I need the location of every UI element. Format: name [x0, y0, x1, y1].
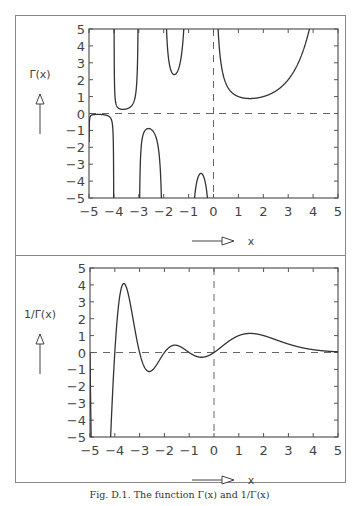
- y-tick-label: 0: [77, 107, 85, 122]
- y-tick-label: 0: [78, 346, 86, 361]
- x-tick-label: −5: [79, 204, 98, 219]
- y-tick-label: −1: [67, 362, 86, 377]
- y-tick-label: 5: [78, 261, 86, 276]
- x-tick-label: −2: [154, 204, 173, 219]
- gamma-plot: −5−4−3−2−1012345543210−1−2−3−4−5Γ(x)x: [29, 0, 342, 249]
- y-tick-label: 3: [77, 56, 85, 71]
- y-tick-label: −3: [67, 396, 86, 411]
- y-tick-label: −5: [66, 191, 85, 206]
- x-tick-label: −3: [130, 443, 149, 458]
- figure: −5−4−3−2−1012345543210−1−2−3−4−5Γ(x)x −5…: [0, 0, 359, 506]
- y-tick-label: −1: [66, 123, 85, 138]
- y-tick-label: 4: [78, 278, 86, 293]
- x-arrowhead-icon: [222, 237, 234, 245]
- y-tick-label: 5: [77, 22, 85, 37]
- y-axis-label: Γ(x): [29, 68, 50, 81]
- reciprocal-gamma-plot: −5−4−3−2−1012345543210−1−2−3−4−51/Γ(x)x: [24, 261, 342, 488]
- y-tick-label: −4: [66, 174, 85, 189]
- x-tick-label: −5: [80, 443, 99, 458]
- y-tick-label: 2: [77, 73, 85, 88]
- y-tick-label: 1: [78, 329, 86, 344]
- y-tick-label: 1: [77, 90, 85, 105]
- x-tick-label: −4: [105, 443, 124, 458]
- x-tick-label: −2: [155, 443, 174, 458]
- x-tick-label: 3: [284, 204, 292, 219]
- y-tick-label: −3: [66, 157, 85, 172]
- x-tick-label: −1: [179, 204, 198, 219]
- x-tick-label: 2: [259, 204, 267, 219]
- x-tick-label: 2: [259, 443, 267, 458]
- y-tick-label: −2: [67, 379, 86, 394]
- y-axis-label: 1/Γ(x): [24, 308, 56, 321]
- x-tick-label: 4: [309, 204, 317, 219]
- x-tick-label: 5: [334, 443, 342, 458]
- y-tick-label: 3: [78, 295, 86, 310]
- y-tick-label: 2: [78, 312, 86, 327]
- x-axis-label: x: [248, 474, 255, 487]
- x-tick-label: 0: [210, 443, 218, 458]
- x-tick-label: −4: [104, 204, 123, 219]
- x-tick-label: 5: [334, 204, 342, 219]
- x-tick-label: −1: [180, 443, 199, 458]
- x-tick-label: 3: [284, 443, 292, 458]
- y-arrowhead-icon: [36, 334, 44, 344]
- y-arrowhead-icon: [36, 94, 44, 104]
- x-tick-label: 4: [309, 443, 317, 458]
- outer-frame: [16, 16, 346, 483]
- x-tick-label: 1: [235, 443, 243, 458]
- x-tick-label: 1: [234, 204, 242, 219]
- y-tick-label: −5: [67, 430, 86, 445]
- y-tick-label: −2: [66, 140, 85, 155]
- x-axis-label: x: [248, 235, 255, 248]
- x-tick-label: 0: [209, 204, 217, 219]
- y-tick-label: 4: [77, 39, 85, 54]
- figure-caption: Fig. D.1. The function Γ(x) and 1/Γ(x): [0, 489, 359, 500]
- x-tick-label: −3: [129, 204, 148, 219]
- y-tick-label: −4: [67, 413, 86, 428]
